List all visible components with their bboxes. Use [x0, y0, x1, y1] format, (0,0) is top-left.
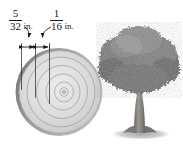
tree-illustration: [96, 18, 182, 140]
fraction-numerator: 1: [53, 8, 61, 19]
pith-center: [62, 90, 65, 93]
unit-label: in.: [65, 22, 74, 31]
ring-width-label-outer: 5 32 in.: [9, 8, 33, 32]
fraction-one-sixteenth: 1 16: [50, 8, 63, 32]
fraction-numerator: 5: [12, 8, 20, 19]
ring-width-label-inner: 1 16 in.: [50, 8, 74, 32]
fraction-denominator: 32: [9, 21, 22, 32]
fraction-denominator: 16: [50, 21, 63, 32]
log-cross-section: [14, 47, 104, 137]
unit-label: in.: [24, 22, 33, 31]
tree-canopy: [98, 26, 180, 93]
tree-ring-diagram: 5 32 in. 1 16 in.: [0, 0, 183, 147]
fraction-five-thirty-seconds: 5 32: [9, 8, 22, 32]
